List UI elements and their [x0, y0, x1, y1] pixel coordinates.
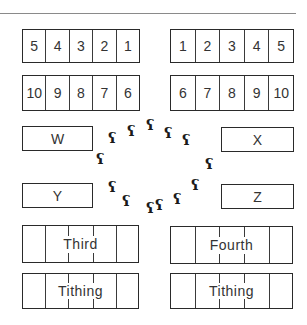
cell: 4	[244, 30, 269, 62]
cell: 4	[45, 30, 68, 62]
footprint-icon: ʕ	[108, 131, 116, 146]
footprint-icon: ʕ	[122, 194, 130, 209]
cell: 2	[92, 30, 115, 62]
cell: 1	[171, 30, 195, 62]
footprint-icon: ʕ	[182, 133, 190, 148]
right-bottom-row: 6 7 8 9 10	[170, 75, 294, 111]
cell: 2	[195, 30, 220, 62]
left-tithing-box: Tithing	[22, 273, 139, 309]
left-top-row: 5 4 3 2 1	[22, 29, 140, 63]
slot-z: Z	[221, 184, 294, 209]
cell: 5	[268, 30, 293, 62]
left-bottom-row: 10 9 8 7 6	[22, 75, 140, 111]
cell: 3	[69, 30, 92, 62]
cell: 6	[116, 76, 139, 110]
right-tithing-label: Tithing	[207, 283, 256, 299]
footprint-icon: ʕ	[146, 118, 154, 133]
cell: 5	[23, 30, 45, 62]
footprint-icon: ʕ	[155, 198, 163, 213]
cell: 8	[69, 76, 92, 110]
cell: 10	[268, 76, 293, 110]
footprint-icon: ʕ	[173, 192, 181, 207]
left-tithing-label: Tithing	[56, 283, 105, 299]
cell: 1	[116, 30, 139, 62]
cell: 7	[195, 76, 220, 110]
third-box: Third	[22, 225, 139, 263]
footprint-icon: ʕ	[96, 152, 104, 167]
footprint-icon: ʕ	[205, 157, 213, 172]
footprint-icon: ʕ	[146, 201, 154, 216]
fourth-label: Fourth	[208, 237, 255, 253]
cell: 9	[244, 76, 269, 110]
cell: 3	[219, 30, 244, 62]
slot-x: X	[221, 127, 294, 152]
right-tithing-box: Tithing	[170, 273, 293, 309]
footprint-icon: ʕ	[191, 178, 199, 193]
cell: 7	[92, 76, 115, 110]
footprint-icon: ʕ	[164, 126, 172, 141]
fourth-box: Fourth	[170, 226, 293, 264]
cell: 10	[23, 76, 45, 110]
slot-y: Y	[22, 183, 93, 208]
cell: 6	[171, 76, 195, 110]
cell: 9	[45, 76, 68, 110]
slot-w: W	[22, 126, 93, 151]
footprint-icon: ʕ	[127, 124, 135, 139]
footprint-icon: ʕ	[108, 180, 116, 195]
cell: 8	[219, 76, 244, 110]
right-top-row: 1 2 3 4 5	[170, 29, 294, 63]
top-rule	[0, 13, 296, 14]
third-label: Third	[61, 236, 99, 252]
